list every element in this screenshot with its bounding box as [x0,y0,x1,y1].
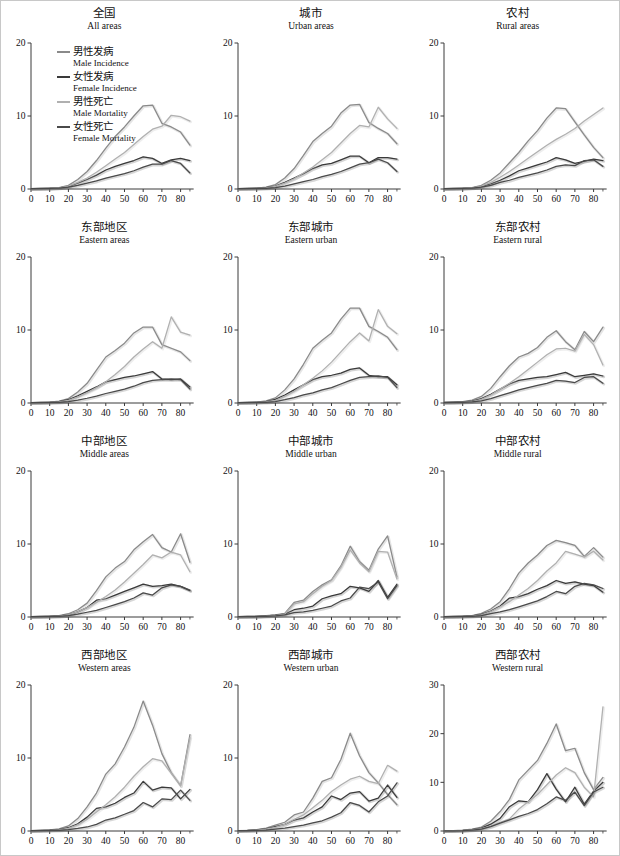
x-tick-label: 80 [382,836,392,846]
x-tick-label: 50 [533,408,543,418]
x-tick-label: 20 [64,622,74,632]
x-tick-label: 30 [289,836,299,846]
y-tick-label: 20 [429,729,439,739]
x-tick-label: 20 [477,408,487,418]
y-tick-label: 0 [434,612,439,622]
x-tick-label: 10 [252,622,262,632]
x-tick-label: 20 [270,836,280,846]
x-tick-label: 50 [326,194,336,204]
x-tick-label: 30 [496,836,506,846]
x-tick-label: 40 [101,194,111,204]
series-line-female-mortality [444,583,603,616]
series-line-male-mortality [444,334,603,402]
x-tick-label: 30 [289,622,299,632]
legend-label-en: Female Incidence [73,83,137,94]
legend-item: 男性发病 [57,45,137,59]
plot-area: 0102001020304050607080 [1,643,208,856]
y-tick-label: 0 [227,398,232,408]
x-tick-label: 40 [308,836,318,846]
x-tick-label: 40 [308,194,318,204]
y-tick-label: 10 [223,111,233,121]
plot-area: 0102001020304050607080 [208,429,415,643]
x-tick-label: 50 [120,836,130,846]
x-tick-label: 60 [345,622,355,632]
x-tick-label: 70 [157,408,167,418]
x-tick-label: 50 [326,622,336,632]
legend-swatch-icon [57,51,70,53]
y-tick-label: 0 [21,612,26,622]
series-line-shadow [445,584,604,617]
legend-item: 女性死亡 [57,120,137,134]
x-tick-label: 70 [570,622,580,632]
y-tick-label: 30 [429,680,439,690]
x-tick-label: 40 [514,622,524,632]
y-tick-label: 10 [429,539,439,549]
x-tick-label: 10 [458,408,468,418]
x-tick-label: 10 [45,836,55,846]
series-line-male-mortality [238,765,397,830]
y-tick-label: 10 [223,753,233,763]
x-tick-label: 30 [82,194,92,204]
series-line-male-incidence [238,308,397,403]
x-tick-label: 0 [29,194,34,204]
legend-label-cn: 女性发病 [73,70,113,83]
panel-western-areas: 西部地区Western areas0102001020304050607080 [1,643,208,856]
series-line-shadow [32,535,191,618]
series-line-female-incidence [31,372,190,403]
y-tick-label: 0 [227,826,232,836]
x-tick-label: 40 [514,194,524,204]
legend-swatch-icon [57,126,70,128]
x-tick-label: 10 [45,194,55,204]
panel-middle-urban: 中部城市Middle urban0102001020304050607080 [208,429,415,643]
x-tick-label: 20 [270,408,280,418]
series-line-shadow [239,537,398,618]
x-tick-label: 60 [345,194,355,204]
series-line-male-mortality [31,317,190,403]
y-tick-label: 0 [21,184,26,194]
y-tick-label: 20 [16,38,26,48]
series-line-shadow [445,774,604,831]
y-tick-label: 20 [429,38,439,48]
plot-area: 010203001020304050607080 [414,643,620,856]
series-line-male-mortality [31,738,190,831]
y-tick-label: 20 [223,680,233,690]
x-tick-label: 60 [552,836,562,846]
x-tick-label: 80 [382,622,392,632]
legend-swatch-icon [57,76,70,78]
x-tick-label: 80 [589,194,599,204]
panel-eastern-areas: 东部地区Eastern areas0102001020304050607080 [1,215,208,429]
legend-label-en: Male Incidence [73,58,137,69]
legend-label-cn: 男性发病 [73,45,113,58]
x-tick-label: 80 [589,408,599,418]
legend-label-cn: 女性死亡 [73,120,113,133]
y-tick-label: 0 [21,826,26,836]
x-tick-label: 70 [364,836,374,846]
x-tick-label: 50 [120,194,130,204]
x-tick-label: 30 [82,836,92,846]
x-tick-label: 80 [382,408,392,418]
x-tick-label: 70 [570,408,580,418]
plot-area: 0102001020304050607080 [414,1,620,215]
y-tick-label: 0 [434,184,439,194]
y-tick-label: 10 [16,753,26,763]
x-tick-label: 10 [458,836,468,846]
x-tick-label: 0 [442,836,447,846]
x-tick-label: 70 [364,194,374,204]
x-tick-label: 10 [252,408,262,418]
x-tick-label: 70 [157,836,167,846]
y-tick-label: 20 [223,466,233,476]
multi-panel-figure: 全国All areas0102001020304050607080男性发病Mal… [0,0,620,856]
y-tick-label: 10 [429,778,439,788]
x-tick-label: 10 [458,622,468,632]
series-line-shadow [32,791,191,832]
x-tick-label: 30 [289,194,299,204]
x-tick-label: 70 [570,194,580,204]
x-tick-label: 20 [64,194,74,204]
legend-swatch-icon [57,101,70,103]
x-tick-label: 0 [442,408,447,418]
x-tick-label: 0 [235,408,240,418]
x-tick-label: 10 [252,194,262,204]
x-tick-label: 0 [235,836,240,846]
legend-label-en: Female Mortality [73,133,137,144]
panel-middle-areas: 中部地区Middle areas0102001020304050607080 [1,429,208,643]
